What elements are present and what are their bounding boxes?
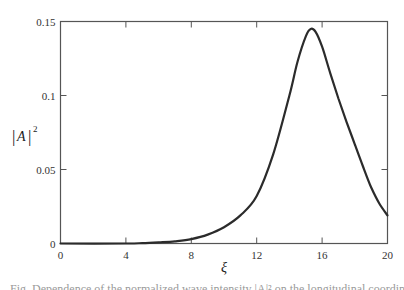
figure-caption: Fig. Dependence of the normalized wave i…: [10, 281, 404, 290]
x-tick-label: 12: [251, 249, 262, 261]
y-axis-label-exponent: 2: [33, 124, 38, 134]
y-tick-label: 0.05: [36, 164, 56, 176]
chart: 048121620 00.050.10.15 ξ | A | 2: [0, 0, 404, 290]
x-tick-label: 4: [123, 249, 129, 261]
axis-ticks: [61, 22, 388, 244]
y-axis-label-base: A: [16, 129, 26, 144]
data-series-line: [61, 29, 388, 244]
y-tick-label: 0.1: [42, 90, 56, 102]
x-tick-label: 0: [58, 249, 64, 261]
svg-text:|: |: [28, 127, 31, 146]
x-tick-labels: 048121620: [58, 249, 394, 261]
x-tick-label: 20: [382, 249, 394, 261]
x-tick-label: 8: [189, 249, 195, 261]
svg-text:|: |: [12, 127, 15, 146]
y-tick-labels: 00.050.10.15: [36, 16, 56, 250]
y-axis-label: | A | 2: [12, 124, 38, 146]
x-axis-label: ξ: [221, 260, 227, 275]
x-tick-label: 16: [317, 249, 329, 261]
plot-frame: [61, 22, 388, 244]
y-tick-label: 0.15: [36, 16, 56, 28]
y-tick-label: 0: [50, 238, 56, 250]
